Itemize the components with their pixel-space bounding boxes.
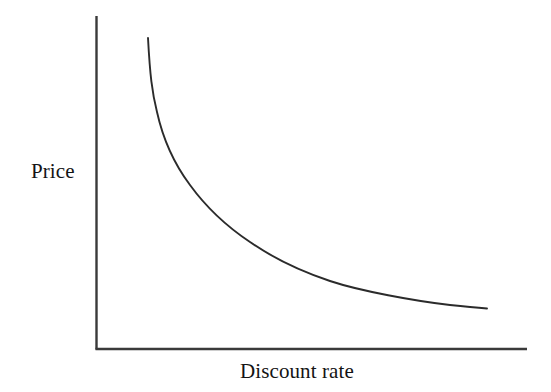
chart-figure: Price Discount rate	[0, 0, 551, 392]
price-discount-rate-plot	[0, 0, 551, 392]
plot-background	[0, 0, 551, 392]
y-axis-label: Price	[31, 161, 75, 182]
x-axis-label: Discount rate	[240, 361, 354, 382]
